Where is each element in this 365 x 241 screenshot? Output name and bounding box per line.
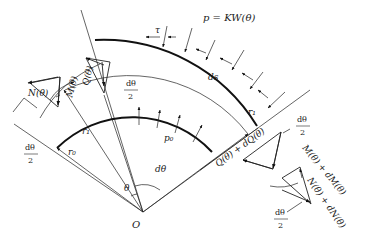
origin-label: O bbox=[132, 219, 140, 230]
outer-radius-label-right: r₁ bbox=[248, 107, 256, 117]
half-dtheta-left: dθ 2 bbox=[24, 143, 38, 165]
svg-text:dθ: dθ bbox=[126, 79, 136, 88]
outer-pressure-arrows bbox=[146, 26, 285, 108]
arcs bbox=[40, 40, 257, 196]
radius-dimensions bbox=[57, 90, 248, 212]
half-dtheta-right-bottom: dθ 2 bbox=[274, 208, 288, 230]
outer-radius-label: r₁ bbox=[82, 126, 90, 136]
svg-text:dθ: dθ bbox=[25, 143, 35, 152]
arc-length-label: ds bbox=[208, 72, 219, 82]
half-dtheta-top: dθ 2 bbox=[124, 79, 138, 101]
svg-text:dθ: dθ bbox=[275, 208, 285, 217]
curved-beam-diagram: p = KW(θ) τ ds r₁ p₀ r₁ r₀ θ dθ O dθ 2 d… bbox=[0, 0, 365, 241]
svg-text:2: 2 bbox=[300, 128, 305, 137]
moment-left-label: M(θ) bbox=[64, 75, 80, 100]
outer-pressure-label: p = KW(θ) bbox=[203, 12, 255, 23]
svg-text:dθ: dθ bbox=[297, 115, 307, 124]
radial-lines bbox=[14, 10, 310, 212]
shear-left-label: Q(θ) bbox=[80, 64, 95, 86]
inner-pressure-label: p₀ bbox=[164, 133, 174, 143]
axial-force-left-label: N(θ) bbox=[27, 88, 49, 98]
inner-radius-label: r₀ bbox=[68, 147, 76, 157]
shear-right-label: Q(θ) + dQ(θ) bbox=[213, 126, 267, 169]
svg-text:2: 2 bbox=[278, 221, 283, 230]
half-dtheta-right-top: dθ 2 bbox=[296, 115, 310, 137]
shear-traction-label: τ bbox=[155, 25, 161, 35]
theta-label: θ bbox=[124, 183, 130, 193]
svg-text:2: 2 bbox=[28, 156, 33, 165]
dtheta-label: dθ bbox=[155, 164, 167, 174]
svg-text:2: 2 bbox=[128, 92, 133, 101]
